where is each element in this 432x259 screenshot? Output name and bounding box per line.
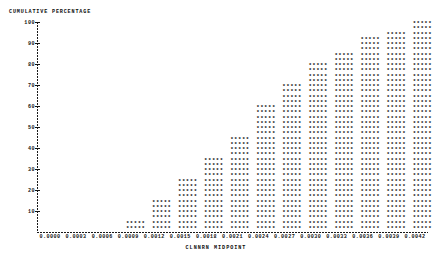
marker-row: ***** (361, 100, 381, 105)
y-tick-mark (35, 127, 40, 128)
x-tick-label: 0.0033 (326, 234, 347, 240)
y-tick-label: 80 (17, 62, 35, 68)
marker-row: ***** (413, 47, 432, 52)
y-tick-label: 10 (17, 209, 35, 215)
marker-row: ***** (361, 89, 381, 94)
marker-row: ***** (308, 210, 328, 215)
marker-row: ***** (361, 68, 381, 73)
marker-row: ***** (256, 179, 276, 184)
y-tick-label: 70 (17, 83, 35, 89)
marker-row: ***** (387, 137, 407, 142)
marker-row: ***** (282, 189, 302, 194)
marker-row: ***** (334, 131, 354, 136)
marker-row: ***** (334, 200, 354, 205)
marker-row: ***** (334, 58, 354, 63)
marker-row: ***** (413, 79, 432, 84)
marker-row: ***** (413, 126, 432, 131)
marker-row: ***** (256, 215, 276, 220)
y-tick-mark (35, 43, 40, 44)
marker-row: ***** (230, 194, 250, 199)
marker-row: ***** (256, 221, 276, 226)
marker-row: ***** (178, 210, 198, 215)
x-tick-label: 0.0018 (196, 234, 217, 240)
marker-row: ***** (387, 79, 407, 84)
marker-row: ***** (387, 189, 407, 194)
marker-row: ***** (256, 173, 276, 178)
y-tick-mark (35, 22, 40, 23)
marker-row: ***** (334, 126, 354, 131)
marker-row: ***** (387, 110, 407, 115)
marker-row: ***** (308, 221, 328, 226)
marker-row: ***** (230, 163, 250, 168)
marker-row: ***** (308, 89, 328, 94)
y-tick-mark (35, 190, 40, 191)
marker-row: ***** (282, 152, 302, 157)
marker-row: ***** (413, 131, 432, 136)
marker-row: ***** (413, 226, 432, 231)
marker-row: ***** (361, 131, 381, 136)
marker-row: ***** (387, 221, 407, 226)
marker-row: ***** (308, 142, 328, 147)
marker-row: ***** (282, 184, 302, 189)
marker-row: ***** (282, 126, 302, 131)
marker-row: ***** (413, 205, 432, 210)
marker-row: ***** (126, 226, 146, 231)
marker-row: ***** (387, 205, 407, 210)
marker-row: ***** (256, 184, 276, 189)
marker-row: ***** (361, 63, 381, 68)
marker-row: ***** (387, 89, 407, 94)
marker-row: ***** (413, 194, 432, 199)
marker-row: ***** (413, 121, 432, 126)
marker-row: ***** (413, 110, 432, 115)
marker-row: ***** (413, 200, 432, 205)
marker-row: ***** (361, 37, 381, 42)
marker-row: ***** (361, 226, 381, 231)
marker-row: ***** (230, 184, 250, 189)
marker-row: ***** (230, 179, 250, 184)
marker-row: ***** (282, 173, 302, 178)
marker-row: ***** (361, 121, 381, 126)
marker-row: ***** (387, 142, 407, 147)
y-tick-label: 30 (17, 167, 35, 173)
marker-row: ***** (334, 100, 354, 105)
marker-row: ***** (334, 137, 354, 142)
marker-row: ***** (334, 184, 354, 189)
marker-row: ***** (152, 226, 172, 231)
data-columns: ****************************************… (0, 0, 432, 259)
y-tick-label: 50 (17, 125, 35, 131)
x-tick-label: 0.0006 (92, 234, 113, 240)
marker-row: ***** (178, 200, 198, 205)
marker-row: ***** (334, 221, 354, 226)
marker-row: ***** (308, 137, 328, 142)
marker-row: ***** (361, 142, 381, 147)
x-axis-line (37, 232, 428, 233)
x-tick-label: 0.0027 (274, 234, 295, 240)
marker-row: ***** (361, 95, 381, 100)
marker-row: ***** (308, 163, 328, 168)
marker-row: ***** (204, 194, 224, 199)
marker-row: ***** (230, 200, 250, 205)
marker-row: ***** (282, 158, 302, 163)
marker-row: ***** (308, 116, 328, 121)
marker-row: ***** (413, 37, 432, 42)
marker-row: ***** (256, 205, 276, 210)
x-tick-label: 0.0024 (248, 234, 269, 240)
marker-row: ***** (387, 158, 407, 163)
marker-row: ***** (178, 179, 198, 184)
y-tick-mark (35, 106, 40, 107)
marker-row: ***** (413, 173, 432, 178)
marker-row: ***** (361, 158, 381, 163)
marker-row: ***** (334, 210, 354, 215)
marker-row: ***** (204, 226, 224, 231)
marker-row: ***** (282, 221, 302, 226)
marker-row: ***** (152, 200, 172, 205)
marker-row: ***** (361, 42, 381, 47)
marker-row: ***** (308, 215, 328, 220)
x-axis-title: CLNNRN MIDPOINT (0, 245, 432, 251)
marker-row: ***** (361, 47, 381, 52)
marker-row: ***** (334, 215, 354, 220)
marker-row: ***** (387, 131, 407, 136)
marker-row: ***** (334, 121, 354, 126)
marker-row: ***** (282, 226, 302, 231)
marker-row: ***** (413, 68, 432, 73)
